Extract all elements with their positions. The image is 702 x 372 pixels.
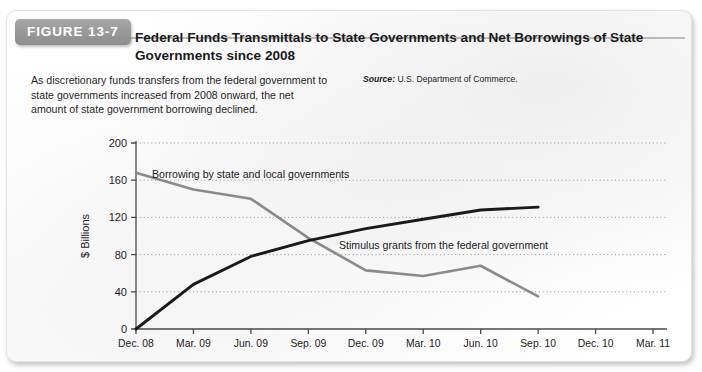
x-tick-label-1: Mar. 09	[176, 338, 211, 349]
series-line-1	[136, 207, 538, 329]
x-tick-label-9: Mar. 11	[636, 338, 670, 349]
line-chart: 04080120160200 Dec. 08Mar. 09Jun. 09Sep.…	[7, 11, 691, 361]
x-tick-label-5: Mar. 10	[406, 338, 441, 349]
y-tick-label-160: 160	[109, 174, 127, 186]
x-tick-label-2: Jun. 09	[234, 338, 268, 349]
x-tick-label-6: Jun. 10	[464, 338, 498, 349]
figure-frame: FIGURE 13-7 Federal Funds Transmittals t…	[6, 10, 692, 362]
series-annotation-0: Borrowing by state and local governments	[152, 168, 349, 180]
y-axis-label: $ Billions	[79, 213, 91, 258]
x-tick-label-4: Dec. 09	[348, 338, 384, 349]
series-annotation-1: Stimulus grants from the federal governm…	[339, 239, 548, 251]
x-axis-ticks: Dec. 08Mar. 09Jun. 09Sep. 09Dec. 09Mar. …	[118, 329, 670, 349]
y-tick-label-200: 200	[109, 137, 127, 149]
x-tick-label-3: Sep. 09	[290, 338, 326, 349]
y-tick-label-0: 0	[121, 323, 127, 335]
y-tick-label-40: 40	[115, 286, 127, 298]
y-tick-label-80: 80	[115, 249, 127, 261]
x-tick-label-0: Dec. 08	[118, 338, 154, 349]
x-tick-label-7: Sep. 10	[520, 338, 556, 349]
x-tick-label-8: Dec. 10	[578, 338, 614, 349]
y-tick-label-120: 120	[109, 211, 127, 223]
figure-root: FIGURE 13-7 Federal Funds Transmittals t…	[0, 0, 702, 372]
gridlines-group	[136, 143, 667, 292]
chart-plot-area: 04080120160200 Dec. 08Mar. 09Jun. 09Sep.…	[7, 11, 691, 361]
y-axis-ticks: 04080120160200	[109, 137, 136, 335]
